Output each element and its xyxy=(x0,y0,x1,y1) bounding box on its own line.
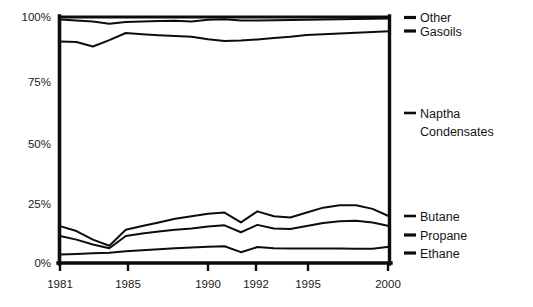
x-tick-label-1992: 1992 xyxy=(243,278,269,290)
series-line-gasoils xyxy=(60,18,389,23)
x-tick-label-1990: 1990 xyxy=(195,278,221,290)
y-tick-labels: 100% 75% 50% 25% 0% xyxy=(22,11,51,269)
chart-canvas: 100% 75% 50% 25% 0% 1981 1985 1990 1992 … xyxy=(0,0,533,307)
y-tick-label-25: 25% xyxy=(28,198,51,210)
x-tick-labels: 1981 1985 1990 1992 1995 2000 xyxy=(47,278,401,290)
x-tick-label-1995: 1995 xyxy=(295,278,321,290)
legend-label-propane: Propane xyxy=(420,229,467,243)
series-line-naptha-condensates xyxy=(60,31,389,46)
y-tick-label-0: 0% xyxy=(34,257,51,269)
series-line-propane xyxy=(60,221,389,249)
y-tick-label-50: 50% xyxy=(28,138,51,150)
x-tick-label-1981: 1981 xyxy=(47,278,73,290)
legend-label-naptha: Naptha xyxy=(420,107,460,121)
legend-label-gasoils: Gasoils xyxy=(420,25,462,39)
x-tick-label-2000: 2000 xyxy=(375,278,401,290)
legend: Other Gasoils Naptha Condensates Butane … xyxy=(404,11,494,261)
legend-label-condensates: Condensates xyxy=(420,125,494,139)
y-tick-label-100: 100% xyxy=(22,11,51,23)
y-tick-label-75: 75% xyxy=(28,76,51,88)
legend-label-butane: Butane xyxy=(420,210,460,224)
axes xyxy=(58,16,391,264)
legend-label-other: Other xyxy=(420,11,451,25)
stacked-share-line-chart: 100% 75% 50% 25% 0% 1981 1985 1990 1992 … xyxy=(0,0,533,307)
x-tick-label-1985: 1985 xyxy=(115,278,141,290)
legend-label-ethane: Ethane xyxy=(420,247,460,261)
series-group xyxy=(60,17,389,254)
